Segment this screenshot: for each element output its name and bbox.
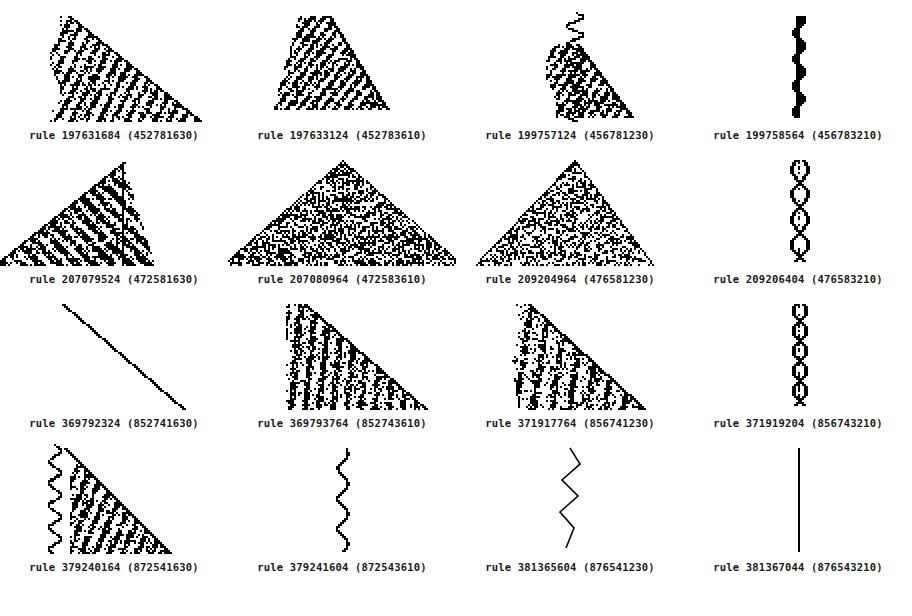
automaton-pattern-canvas bbox=[0, 444, 228, 554]
automaton-pattern-canvas bbox=[684, 300, 912, 410]
automaton-panel-group bbox=[0, 300, 912, 410]
automaton-panel bbox=[456, 300, 684, 410]
automaton-row: rule 207079524 (472581630)rule 207080964… bbox=[0, 156, 912, 300]
automaton-panel bbox=[684, 300, 912, 410]
automaton-row: rule 369792324 (852741630)rule 369793764… bbox=[0, 300, 912, 444]
automaton-panel bbox=[684, 444, 912, 554]
automaton-row: rule 197631684 (452781630)rule 197633124… bbox=[0, 12, 912, 156]
automaton-panel bbox=[0, 444, 228, 554]
automaton-panel bbox=[456, 444, 684, 554]
automaton-caption: rule 199758564 (456783210) bbox=[684, 129, 912, 141]
automaton-panel bbox=[228, 12, 456, 122]
automaton-caption: rule 207079524 (472581630) bbox=[0, 273, 228, 285]
automaton-panel bbox=[456, 12, 684, 122]
automaton-panel-group bbox=[0, 444, 912, 554]
automaton-caption: rule 197633124 (452783610) bbox=[228, 129, 456, 141]
automaton-pattern-canvas bbox=[0, 12, 228, 122]
automaton-pattern-canvas bbox=[684, 444, 912, 554]
automaton-panel-group bbox=[0, 156, 912, 266]
automaton-pattern-canvas bbox=[684, 12, 912, 122]
automaton-caption: rule 209204964 (476581230) bbox=[456, 273, 684, 285]
automaton-pattern-canvas bbox=[684, 156, 912, 266]
automaton-caption: rule 381365604 (876541230) bbox=[456, 561, 684, 573]
automaton-caption: rule 199757124 (456781230) bbox=[456, 129, 684, 141]
automaton-panel bbox=[0, 300, 228, 410]
automaton-panel bbox=[0, 156, 228, 266]
automaton-caption-group: rule 379240164 (872541630)rule 379241604… bbox=[0, 554, 912, 580]
automaton-pattern-canvas bbox=[456, 300, 684, 410]
automaton-caption: rule 369793764 (852743610) bbox=[228, 417, 456, 429]
automaton-caption: rule 371917764 (856741230) bbox=[456, 417, 684, 429]
automaton-panel-group bbox=[0, 12, 912, 122]
automaton-panel bbox=[228, 300, 456, 410]
automaton-panel bbox=[456, 156, 684, 266]
automaton-caption: rule 197631684 (452781630) bbox=[0, 129, 228, 141]
automaton-caption-group: rule 207079524 (472581630)rule 207080964… bbox=[0, 266, 912, 292]
automaton-panel bbox=[684, 12, 912, 122]
automaton-caption: rule 379240164 (872541630) bbox=[0, 561, 228, 573]
automaton-panel bbox=[228, 156, 456, 266]
automaton-row: rule 379240164 (872541630)rule 379241604… bbox=[0, 444, 912, 588]
automaton-pattern-canvas bbox=[456, 12, 684, 122]
automaton-pattern-canvas bbox=[456, 156, 684, 266]
automaton-panel bbox=[228, 444, 456, 554]
automaton-pattern-canvas bbox=[228, 444, 456, 554]
automaton-pattern-canvas bbox=[228, 156, 456, 266]
automaton-caption: rule 381367044 (876543210) bbox=[684, 561, 912, 573]
automaton-caption-group: rule 197631684 (452781630)rule 197633124… bbox=[0, 122, 912, 148]
automaton-panel bbox=[0, 12, 228, 122]
automaton-pattern-canvas bbox=[456, 444, 684, 554]
automaton-pattern-canvas bbox=[228, 300, 456, 410]
cellular-automaton-figure: rule 197631684 (452781630)rule 197633124… bbox=[0, 0, 912, 616]
automaton-pattern-canvas bbox=[0, 300, 228, 410]
automaton-caption: rule 379241604 (872543610) bbox=[228, 561, 456, 573]
automaton-caption: rule 369792324 (852741630) bbox=[0, 417, 228, 429]
automaton-pattern-canvas bbox=[228, 12, 456, 122]
automaton-caption: rule 207080964 (472583610) bbox=[228, 273, 456, 285]
automaton-panel bbox=[684, 156, 912, 266]
automaton-caption: rule 209206404 (476583210) bbox=[684, 273, 912, 285]
automaton-caption: rule 371919204 (856743210) bbox=[684, 417, 912, 429]
automaton-caption-group: rule 369792324 (852741630)rule 369793764… bbox=[0, 410, 912, 436]
automaton-pattern-canvas bbox=[0, 156, 228, 266]
